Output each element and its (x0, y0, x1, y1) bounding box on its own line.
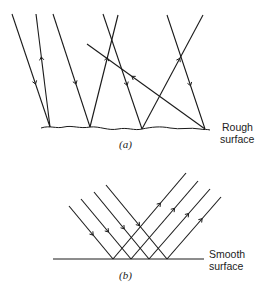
rough-label-line1: Rough (222, 121, 254, 133)
incident-ray (12, 14, 50, 127)
incident-ray (106, 185, 167, 259)
rough-surface-rays (12, 14, 205, 129)
reflected-ray (87, 44, 205, 129)
rough-label-line2: surface (220, 133, 254, 145)
incident-ray (103, 14, 142, 129)
caption-b: (b) (119, 269, 132, 281)
smooth-label-line1: Smooth (209, 248, 245, 260)
panel-a (12, 14, 210, 130)
reflected-ray (149, 189, 210, 259)
smooth-surface-rays (69, 173, 221, 259)
reflection-diagram: Rough surface (a) Smooth surface (b) (0, 0, 267, 294)
panel-b (53, 173, 221, 259)
incident-ray (53, 14, 90, 127)
smooth-surface-label: Smooth surface (209, 248, 245, 272)
reflected-ray (113, 173, 186, 259)
incident-ray (69, 206, 113, 259)
smooth-label-line2: surface (209, 260, 245, 272)
reflected-ray (131, 181, 198, 259)
reflected-ray (90, 15, 118, 127)
rough-surface-label: Rough surface (222, 121, 254, 145)
reflected-ray (36, 14, 50, 127)
rough-surface-line (41, 126, 210, 130)
caption-a: (a) (119, 138, 132, 150)
